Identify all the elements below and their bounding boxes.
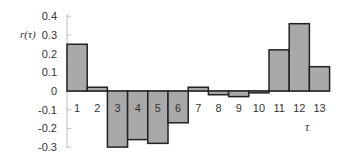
x-category-label: 10: [253, 102, 265, 114]
y-tick-label: 0.3: [42, 29, 57, 41]
x-axis-label: τ: [305, 120, 310, 134]
bar-11: [269, 50, 289, 91]
x-category-label: 8: [215, 102, 221, 114]
bar-2: [87, 87, 107, 91]
x-category-label: 12: [293, 102, 305, 114]
x-category-label: 3: [114, 102, 120, 114]
y-tick-label: -0.3: [38, 141, 57, 153]
bar-3: [107, 91, 127, 147]
x-category-label: 6: [175, 102, 181, 114]
bar-12: [289, 24, 309, 91]
x-category-label: 4: [135, 102, 141, 114]
bar-10: [249, 91, 269, 93]
bar-7: [188, 87, 208, 91]
bar-1: [67, 44, 87, 91]
y-tick-label: 0.2: [42, 48, 57, 60]
x-category-label: 2: [94, 102, 100, 114]
x-category-label: 5: [155, 102, 161, 114]
x-category-label: 13: [313, 102, 325, 114]
bars: [67, 24, 330, 147]
y-axis-label: r(τ): [20, 28, 36, 41]
x-category-label: 7: [195, 102, 201, 114]
y-tick-label: 0.1: [42, 66, 57, 78]
y-tick-label: -0.1: [38, 104, 57, 116]
x-category-label: 9: [236, 102, 242, 114]
autocorrelation-bar-chart: 0.40.30.20.10-0.1-0.2-0.3 12345678910111…: [0, 0, 353, 161]
x-category-label: 11: [273, 102, 284, 114]
y-tick-label: -0.2: [38, 122, 57, 134]
y-tick-label: 0: [51, 85, 57, 97]
x-category-label: 1: [74, 102, 80, 114]
y-tick-label: 0.4: [42, 10, 57, 22]
bar-5: [148, 91, 168, 143]
bar-9: [229, 91, 249, 97]
bar-13: [309, 67, 329, 91]
bar-4: [128, 91, 148, 140]
bar-8: [208, 91, 228, 95]
